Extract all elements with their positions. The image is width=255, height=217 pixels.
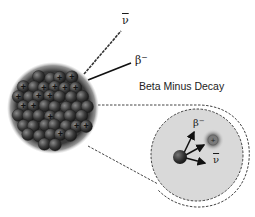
proton-plus-sign: +: [74, 121, 79, 131]
proton-plus-sign: +: [57, 73, 62, 83]
inset-antineutrino-label: ν: [213, 154, 219, 165]
beta-minus-label: β−: [135, 53, 148, 67]
inset-antineutrino-symbol: ν: [213, 154, 219, 165]
diagram-canvas: ++++++++++++++++ +: [0, 0, 255, 217]
beta-track: [88, 63, 131, 80]
beta-decay-diagram: ++++++++++++++++ + Beta Minus Decay ν β−…: [0, 0, 255, 217]
proton-plus-sign: +: [84, 121, 89, 131]
neutron-sphere: [22, 128, 34, 140]
neutron-sphere: [49, 139, 61, 151]
proton-sign: +: [211, 136, 216, 145]
inset-beta-minus-label: β−: [193, 117, 205, 128]
callout-bottom-line: [88, 146, 158, 184]
proton-plus-sign: +: [58, 129, 63, 139]
neutron-sphere: [64, 129, 76, 141]
proton-plus-sign: +: [31, 101, 36, 111]
antineutrino-symbol: ν: [122, 14, 129, 27]
inset-beta-charge: −: [199, 117, 205, 125]
proton-plus-sign: +: [16, 92, 21, 102]
antineutrino-label: ν: [122, 14, 129, 27]
antineutrino-track: [84, 31, 121, 74]
proton-plus-sign: +: [21, 82, 26, 92]
proton-plus-sign: +: [36, 91, 41, 101]
neutron: [173, 150, 187, 164]
diagram-title: Beta Minus Decay: [139, 80, 224, 92]
proton-plus-sign: +: [47, 91, 52, 101]
nucleus: ++++++++++++++++: [7, 62, 99, 154]
proton-plus-sign: +: [69, 72, 74, 82]
proton-plus-sign: +: [52, 82, 57, 92]
beta-charge: −: [141, 53, 147, 62]
